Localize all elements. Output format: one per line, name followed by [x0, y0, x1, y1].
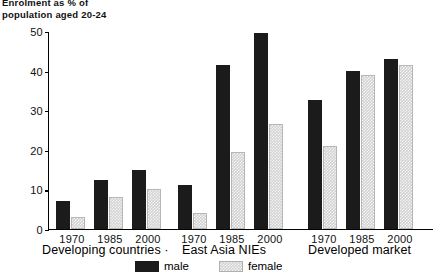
bar-pair: 2000 — [253, 32, 287, 229]
y-axis-label: 10 — [30, 185, 43, 196]
y-axis-label: 40 — [30, 67, 43, 78]
chart-title-line-1: Enrolment as % of — [2, 0, 88, 8]
y-axis-label: 0 — [37, 225, 43, 236]
bar-male — [56, 201, 70, 229]
y-axis-label: 50 — [30, 27, 43, 38]
bar-group: 197019852000 — [307, 32, 419, 229]
bar-female — [193, 213, 207, 229]
bar-female — [323, 146, 337, 229]
bar-male — [384, 59, 398, 229]
y-axis-tick — [45, 230, 49, 231]
group-label: East Asia NIEs — [182, 243, 266, 257]
bar-group: 197019852000 — [55, 32, 167, 229]
bar-pair: 1970 — [55, 32, 89, 229]
plot-area: 01020304050 1970198520001970198520001970… — [48, 32, 433, 230]
bar-groups: 197019852000197019852000197019852000 — [49, 32, 433, 229]
legend-swatch-female — [219, 261, 243, 272]
bar-group: 197019852000 — [177, 32, 289, 229]
legend-item-female: female — [219, 260, 283, 273]
bar-female — [109, 197, 123, 229]
group-label: Developed market — [308, 243, 411, 257]
legend-swatch-male — [135, 261, 159, 272]
bar-male — [94, 180, 108, 230]
bar-pair: 1985 — [215, 32, 249, 229]
legend-label-female: female — [248, 260, 283, 273]
bar-pair: 2000 — [131, 32, 165, 229]
bar-pair: 1970 — [177, 32, 211, 229]
bar-chart: Enrolment as % of population aged 20-24 … — [0, 0, 441, 277]
bar-female — [147, 189, 161, 229]
bar-male — [216, 65, 230, 229]
bar-male — [254, 33, 268, 229]
bar-pair: 1985 — [93, 32, 127, 229]
bar-male — [178, 185, 192, 229]
bar-male — [308, 100, 322, 229]
bar-female — [269, 124, 283, 229]
bar-pair: 1970 — [307, 32, 341, 229]
chart-title-line-2: population aged 20-24 — [2, 9, 202, 21]
y-axis-label: 20 — [30, 146, 43, 157]
group-label: Developing countries · — [42, 243, 169, 257]
bar-female — [399, 65, 413, 229]
bar-male — [132, 170, 146, 229]
chart-title: Enrolment as % of population aged 20-24 — [2, 0, 202, 21]
bar-female — [231, 152, 245, 229]
legend-item-male: male — [135, 260, 189, 273]
bar-female — [71, 217, 85, 229]
legend-label-male: male — [164, 260, 189, 273]
bar-female — [361, 75, 375, 229]
bar-pair: 1985 — [345, 32, 379, 229]
bar-pair: 2000 — [383, 32, 417, 229]
chart-legend: male female — [135, 260, 282, 273]
y-axis-label: 30 — [30, 106, 43, 117]
bar-male — [346, 71, 360, 229]
